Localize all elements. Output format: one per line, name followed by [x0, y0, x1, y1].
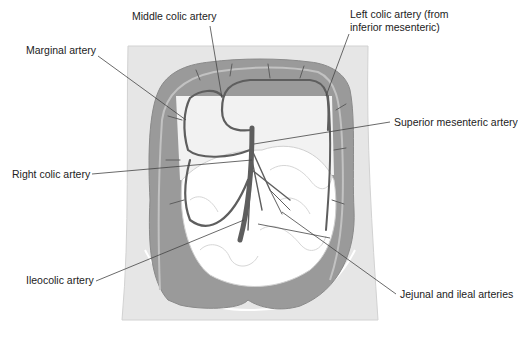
label-middle-colic-artery: Middle colic artery	[132, 10, 217, 23]
label-right-colic-artery: Right colic artery	[12, 168, 90, 181]
label-ileocolic-artery: Ileocolic artery	[26, 274, 94, 287]
label-left-colic-artery-line2: inferior mesenteric)	[350, 21, 440, 34]
label-superior-mesenteric-artery: Superior mesenteric artery	[394, 116, 518, 129]
label-jejunal-ileal-arteries: Jejunal and ileal arteries	[400, 288, 513, 301]
label-left-colic-artery-line1: Left colic artery (from	[350, 8, 449, 21]
small-intestine	[181, 146, 336, 286]
label-marginal-artery: Marginal artery	[26, 44, 96, 57]
